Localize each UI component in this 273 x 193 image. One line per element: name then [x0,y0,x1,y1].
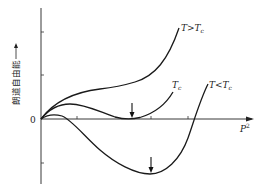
x-axis-label: P2 [239,122,250,134]
curve-t-below-tc [41,84,208,174]
origin-label: 0 [30,115,36,125]
below-tc-minimum-arrow-icon [149,157,154,173]
curve-t-critical [41,92,173,119]
tc-minimum-arrow-icon [130,103,135,118]
label-t-above-tc: T>Tc [181,23,205,34]
landau-free-energy-chart: 0 P2 朗道自由能 T>Tc Tc T<Tc [0,0,273,193]
y-axis-label: 朗道自由能 [11,43,21,105]
x-axis-arrowhead-icon [246,117,254,122]
label-t-critical: Tc [172,80,182,91]
label-t-below-tc: T<Tc [209,80,233,91]
svg-text:朗道自由能: 朗道自由能 [11,60,21,105]
